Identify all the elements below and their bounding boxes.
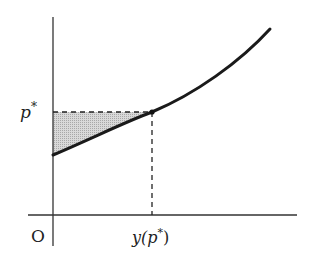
diagram-canvas: p* O y(p*) — [0, 0, 320, 267]
y-axis-label: p* — [20, 100, 37, 122]
origin-label: O — [31, 226, 45, 246]
equilibrium-point — [149, 109, 154, 114]
x-axis-label: y(p*) — [131, 226, 169, 247]
